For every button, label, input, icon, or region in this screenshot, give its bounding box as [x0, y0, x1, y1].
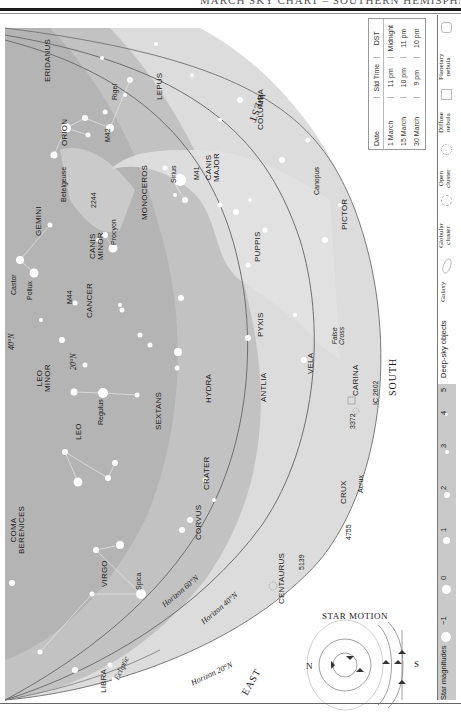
- label-coma-berenices: COMA BERENICES: [10, 506, 27, 554]
- label-columba: COLUMBA: [257, 89, 265, 130]
- label-crater: CRATER: [203, 457, 211, 491]
- label-ngc5139: 5139: [298, 554, 305, 570]
- magnitude-dot-0: [442, 585, 451, 594]
- label-lepus: LEPUS: [156, 73, 164, 100]
- label-spica: Spica: [135, 572, 142, 590]
- label-cancer: CANCER: [86, 283, 94, 318]
- magnitude-label-2: 2: [440, 486, 448, 490]
- label-leo: LEO: [75, 423, 83, 440]
- label-antlia: ANTLIA: [260, 373, 268, 402]
- time-table: Date Std Time DST 1 March 11 pm Midnight…: [368, 18, 426, 150]
- label-castor: Castor: [10, 274, 17, 295]
- magnitude-dot-5: [446, 380, 448, 382]
- label-ngc3372: 3372: [349, 413, 356, 429]
- legend-galaxy-label: Galaxy: [440, 282, 447, 302]
- star-motion-title: Star Motion: [322, 612, 388, 621]
- star-motion-arrows: [331, 650, 406, 684]
- label-vela: VELA: [307, 353, 315, 374]
- magnitude-label-4: 4: [440, 411, 448, 415]
- bottom-rule: [0, 703, 461, 704]
- label-monoceros: MONOCEROS: [141, 165, 149, 220]
- label-eridanus: ERIDANUS: [44, 39, 52, 82]
- legend-magnitudes-label: Star magnitudes: [440, 645, 448, 700]
- label-m42: M42: [104, 128, 111, 142]
- label-sirius: Sirius: [170, 165, 177, 183]
- label-false-cross: False Cross: [331, 327, 346, 345]
- label-pollux: Pollux: [26, 281, 33, 300]
- label-ngc2244: 2244: [90, 192, 97, 208]
- label-procyon: Procyon: [110, 219, 117, 245]
- open-cluster-icon: [441, 144, 452, 155]
- diffuse-nebula-icon: [441, 89, 452, 100]
- planetary-nebula-icon: [441, 22, 452, 33]
- label-m41: M41: [193, 166, 200, 180]
- latitude-20n-label: 20°N: [70, 353, 78, 370]
- legend-globular-label: Globular cluster: [438, 223, 453, 248]
- label-crux: CRUX: [340, 481, 348, 504]
- label-gemini: GEMINI: [35, 206, 43, 236]
- label-regulus: Regulus: [97, 399, 104, 425]
- star-motion-south: S: [414, 660, 420, 669]
- magnitude-label-minus1: −1: [440, 616, 448, 625]
- label-puppis: PUPPIS: [254, 231, 262, 262]
- label-pictor: PICTOR: [341, 199, 349, 230]
- legend-planetary-nebula-label: Planetary nebula: [438, 54, 453, 80]
- star-motion-north: N: [306, 662, 314, 671]
- label-acrux: Acrux: [357, 475, 364, 493]
- time-table-row: 1 March 11 pm Midnight: [384, 19, 397, 149]
- label-virgo: VIRGO: [101, 560, 109, 587]
- direction-south: SOUTH: [388, 358, 399, 396]
- latitude-40n-label: 40°N: [8, 333, 16, 350]
- label-ic2602: IC 2602: [372, 380, 379, 405]
- label-canis-major: CANIS MAJOR: [205, 153, 222, 182]
- magnitude-dot-3: [445, 450, 449, 454]
- time-table-row: 15 March 10 pm 11 pm: [397, 19, 410, 149]
- label-m44: M44: [66, 290, 73, 304]
- magnitude-label-1: 1: [440, 528, 448, 532]
- label-leo-minor: LEO MINOR: [36, 364, 53, 392]
- label-pyxis: PYXIS: [257, 312, 265, 337]
- magnitude-dot-1: [443, 537, 450, 544]
- magnitude-dot-2: [444, 492, 450, 498]
- magnitude-label-0: 0: [440, 576, 448, 580]
- label-betelgeuse: Betelgeuse: [60, 167, 67, 202]
- legend-open-cluster-label: Open cluster: [438, 169, 453, 188]
- legend-diffuse-nebula-label: Diffuse nebula: [438, 112, 453, 133]
- magnitude-label-5: 5: [440, 388, 448, 392]
- label-orion: ORION: [61, 119, 69, 146]
- label-corvus: CORVUS: [195, 505, 203, 540]
- legend-deep-sky-label: Deep-sky objects: [440, 320, 448, 378]
- magnitude-label-3: 3: [440, 444, 448, 448]
- label-canopus: Canopus: [313, 167, 320, 195]
- magnitude-dot-minus1: [441, 632, 451, 642]
- label-centaurus: CENTAURUS: [278, 553, 286, 604]
- label-hydra: HYDRA: [205, 374, 213, 403]
- star-chart-page: MARCH SKY CHART – SOUTHERN HEMISPHERE: [0, 0, 461, 724]
- label-libra: LIBRA: [100, 669, 108, 693]
- label-ngc4755: 4755: [345, 524, 352, 540]
- time-table-header: Date Std Time DST: [369, 19, 384, 149]
- label-rigel: Rigel: [111, 84, 118, 100]
- label-carina: CARINA: [352, 365, 360, 396]
- time-table-row: 30 March 9 pm 10 pm: [410, 19, 423, 149]
- globular-cluster-icon: [441, 195, 452, 206]
- label-canis-minor: CANIS MINOR: [89, 232, 106, 260]
- star-motion-diagram: [307, 620, 403, 710]
- label-sextans: SEXTANS: [155, 392, 163, 430]
